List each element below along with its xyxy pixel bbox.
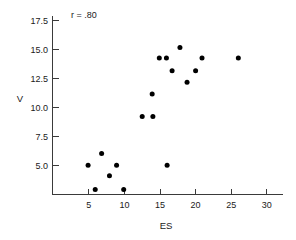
data-point <box>157 55 162 60</box>
x-tick-label: 5 <box>86 200 91 210</box>
data-point <box>114 163 119 168</box>
data-point <box>107 173 112 178</box>
y-tick-label: 12.5 <box>30 74 48 84</box>
x-tick-label: 30 <box>262 200 272 210</box>
y-tick-label: 10.0 <box>30 103 48 113</box>
data-point <box>193 68 198 73</box>
data-point <box>185 80 190 85</box>
data-point <box>150 91 155 96</box>
y-axis-tick-labels: 17.5 15.0 12.5 10.0 7.5 5.0 <box>30 16 48 171</box>
x-tick-label: 10 <box>119 200 129 210</box>
data-point <box>177 45 182 50</box>
data-points-layer <box>86 45 241 192</box>
y-axis-title: V <box>17 93 24 104</box>
plot-axes <box>53 16 284 195</box>
data-point <box>86 163 91 168</box>
x-tick-label: 25 <box>226 200 236 210</box>
y-tick-label: 5.0 <box>35 161 48 171</box>
scatter-plot-figure: 17.5 15.0 12.5 10.0 7.5 5.0 5 10 15 20 2… <box>0 0 296 240</box>
x-tick-label: 15 <box>155 200 165 210</box>
data-point <box>150 114 155 119</box>
y-tick-label: 7.5 <box>35 132 48 142</box>
y-tick-label: 15.0 <box>30 45 48 55</box>
data-point <box>121 187 126 192</box>
data-point <box>99 151 104 156</box>
y-axis-ticks <box>53 21 59 166</box>
x-axis-title: ES <box>160 220 173 231</box>
data-point <box>200 55 205 60</box>
data-point <box>165 163 170 168</box>
data-point <box>140 114 145 119</box>
data-point <box>93 187 98 192</box>
y-tick-label: 17.5 <box>30 16 48 26</box>
correlation-annotation: r = .80 <box>71 10 97 20</box>
scatter-plot-canvas: 17.5 15.0 12.5 10.0 7.5 5.0 5 10 15 20 2… <box>0 0 296 240</box>
x-axis-ticks <box>89 189 267 195</box>
data-point <box>170 68 175 73</box>
data-point <box>164 55 169 60</box>
data-point <box>236 55 241 60</box>
x-axis-tick-labels: 5 10 15 20 25 30 <box>86 200 272 210</box>
x-tick-label: 20 <box>191 200 201 210</box>
